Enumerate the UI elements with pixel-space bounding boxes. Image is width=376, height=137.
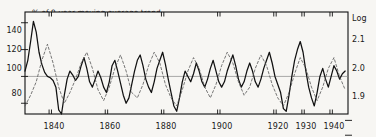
plot-area bbox=[0, 0, 376, 137]
chart-figure: 140 120 100 80 Log 2.1 2.0 1.9 1840 1860… bbox=[0, 0, 376, 137]
